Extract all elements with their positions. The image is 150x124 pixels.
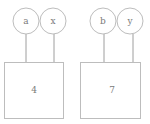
output-label-1: 4 xyxy=(31,85,37,95)
output-label-2: 7 xyxy=(109,85,115,95)
input-label-y: y xyxy=(126,16,133,26)
input-label-a: a xyxy=(23,16,29,26)
group-2: b y 7 xyxy=(81,8,144,119)
input-label-x: x xyxy=(50,16,55,26)
group-1: a x 4 xyxy=(5,8,67,119)
diagram-canvas: a x 4 b y 7 xyxy=(0,0,150,124)
input-label-b: b xyxy=(100,16,106,26)
